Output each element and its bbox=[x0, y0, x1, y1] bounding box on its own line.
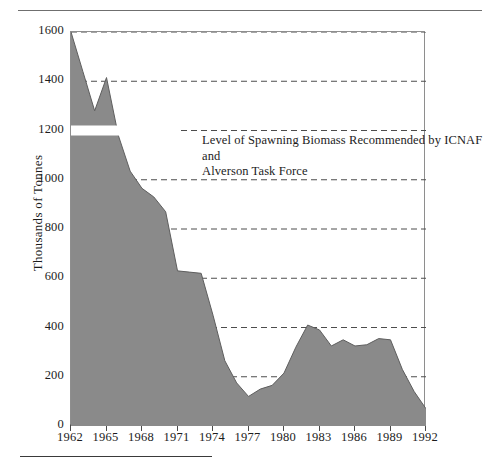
plot-area: Level of Spawning Biomass Recommended by… bbox=[70, 31, 425, 425]
area-chart-plot bbox=[71, 32, 426, 426]
x-tick-label-1992: 1992 bbox=[403, 431, 447, 444]
icnaf-annotation: Level of Spawning Biomass Recommended by… bbox=[202, 133, 492, 180]
annotation-line-1: Level of Spawning Biomass Recommended by… bbox=[202, 133, 492, 164]
icnaf-level-white-band bbox=[71, 126, 178, 136]
annotation-line-2: Alverson Task Force bbox=[202, 164, 492, 180]
icnaf-reference-band bbox=[71, 126, 178, 136]
figure-container: Thousands of Tonnes 02004006008001000120… bbox=[0, 0, 499, 467]
